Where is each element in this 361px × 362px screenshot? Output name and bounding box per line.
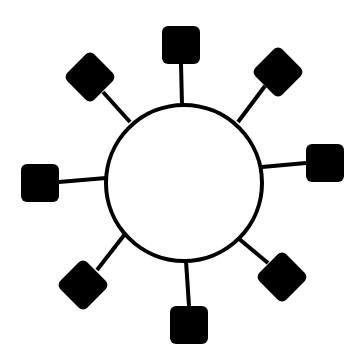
connector-line-bottom-right [238, 238, 268, 263]
connector-line-top-left [103, 92, 130, 122]
node-left [21, 164, 59, 202]
connector-line-top [181, 64, 182, 105]
star-topology-diagram [0, 0, 361, 362]
connector-line-bottom [186, 261, 189, 306]
connector-line-left [59, 178, 106, 182]
node-top [162, 26, 200, 64]
node-bottom [170, 306, 208, 344]
hub-circle [106, 105, 262, 261]
node-right [306, 144, 344, 182]
connector-line-right [262, 163, 306, 167]
connector-line-bottom-left [97, 234, 125, 270]
connector-line-top-right [238, 86, 265, 122]
